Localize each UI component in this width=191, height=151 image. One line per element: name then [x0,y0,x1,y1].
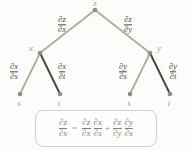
equals-sign: = [72,124,77,133]
edge-y-s [130,53,150,94]
fraction-numerator: ∂z [58,15,66,24]
fraction-numerator: ∂y [125,118,133,127]
formula-term2-factor1: ∂z ∂y [113,118,121,138]
fraction-denominator: ∂x [58,24,66,34]
fraction-denominator: ∂s [125,128,133,139]
node-label-s2: s [127,99,131,108]
fraction-numerator: ∂x [94,118,102,127]
fraction-denominator: ∂s [59,128,67,139]
node-label-z: z [93,0,97,8]
fraction-numerator: ∂z [124,15,132,24]
fraction-denominator: ∂s [10,71,18,81]
plus-sign: + [105,124,110,133]
fraction-numerator: ∂z [113,118,121,127]
node-label-y: y [157,44,161,53]
chain-rule-diagram: z x y s t s t ∂z ∂x ∂z ∂y ∂x ∂s ∂x ∂t ∂y… [0,0,191,151]
node-label-x: x [29,44,33,53]
node-s1-dot [18,92,23,97]
formula-term1-factor1: ∂z ∂x [82,118,90,138]
edge-z-y [95,10,150,53]
edge-y-t [150,53,170,94]
node-x-dot [38,51,43,56]
fraction-denominator: ∂s [119,71,127,81]
node-z-dot [93,8,98,13]
fraction-numerator: ∂x [10,62,18,71]
edge-label-dy-dt: ∂y ∂t [169,62,177,81]
edge-x-t [40,53,60,94]
fraction-denominator: ∂t [59,71,66,81]
edge-z-x [40,10,95,53]
chain-rule-formula-box: ∂z ∂s = ∂z ∂x ∂x ∂s + ∂z ∂y ∂y ∂s [35,110,157,147]
node-label-t1: t [58,99,61,108]
fraction-denominator: ∂y [124,24,132,34]
fraction-denominator: ∂y [113,128,121,139]
node-label-t2: t [168,99,171,108]
fraction-denominator: ∂t [170,71,177,81]
node-t2-dot [168,92,173,97]
fraction-denominator: ∂s [94,128,102,139]
formula-term2-factor2: ∂y ∂s [125,118,133,138]
fraction-numerator: ∂z [82,118,90,127]
edge-label-dz-dy: ∂z ∂y [124,15,132,34]
node-y-dot [148,51,153,56]
edge-x-s [20,53,40,94]
fraction-numerator: ∂x [58,62,66,71]
formula-term1-factor2: ∂x ∂s [94,118,102,138]
fraction-numerator: ∂y [169,62,177,71]
node-t1-dot [58,92,63,97]
edge-label-dz-dx: ∂z ∂x [58,15,66,34]
edge-label-dx-ds: ∂x ∂s [10,62,18,81]
fraction-denominator: ∂x [82,128,90,139]
edge-label-dy-ds: ∂y ∂s [119,62,127,81]
node-label-s1: s [17,99,21,108]
fraction-numerator: ∂y [119,62,127,71]
node-s2-dot [128,92,133,97]
edge-label-dx-dt: ∂x ∂t [58,62,66,81]
formula-lhs-fraction: ∂z ∂s [59,118,67,138]
fraction-numerator: ∂z [59,118,67,127]
